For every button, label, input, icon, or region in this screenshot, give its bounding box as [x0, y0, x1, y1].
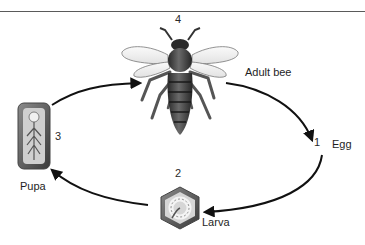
arrow-egg-to-larva [205, 155, 322, 212]
stage-number-pupa: 3 [55, 130, 61, 142]
stage-label-adult: Adult bee [245, 66, 291, 78]
stage-number-adult: 4 [175, 13, 181, 25]
stage-number-egg: 1 [314, 136, 320, 148]
life-cycle-diagram [0, 0, 365, 245]
arrow-pupa-to-adult [52, 83, 140, 105]
stage-label-egg: Egg [332, 138, 352, 150]
larva-icon [161, 187, 199, 229]
pupa-icon [18, 103, 50, 169]
arrow-adult-to-egg [226, 83, 312, 140]
arrow-larva-to-pupa [52, 170, 148, 205]
adult-bee-icon [122, 28, 238, 135]
stage-label-larva: Larva [202, 216, 230, 228]
stage-number-larva: 2 [175, 167, 181, 179]
stage-label-pupa: Pupa [20, 180, 46, 192]
